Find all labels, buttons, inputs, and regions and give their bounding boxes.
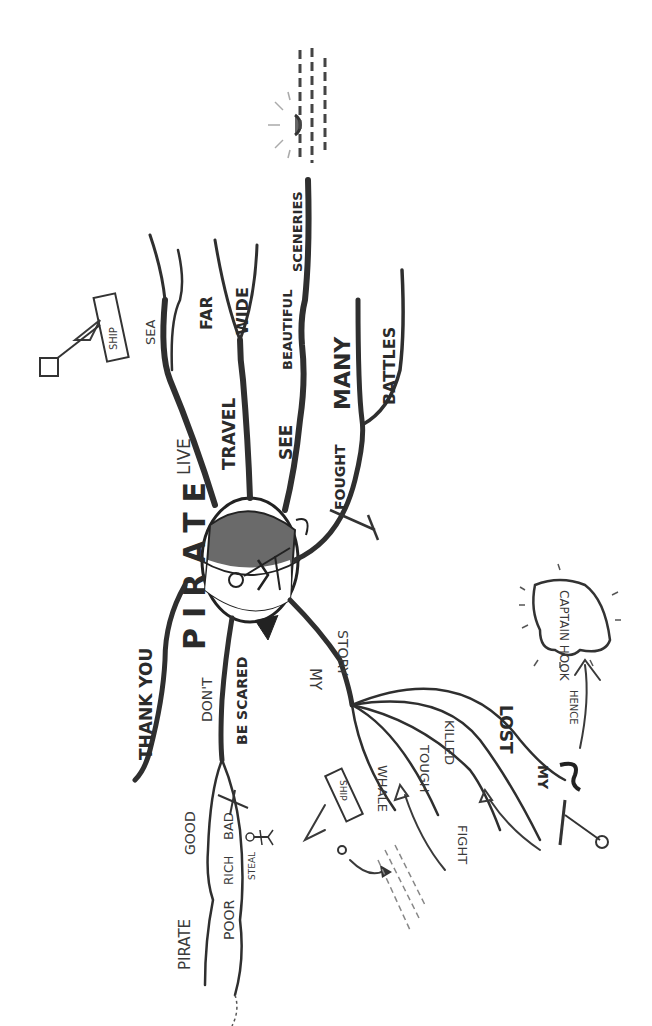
pirate-head-icon [200,498,308,640]
branch-label-see: SEE [276,425,296,460]
mind-map-canvas: PIRATE LIVE SEA SHIP TRAVEL FAR WIDE SEE… [0,0,652,1026]
leaf-label-wide: WIDE [233,287,252,335]
callout-label: CAPTAIN HOOK [557,590,571,682]
branch-label-thank-you: THANK YOU [136,648,156,760]
ship-icon: SHIP [305,769,425,930]
sunset-over-sea-icon [268,48,325,163]
captain-hook-callout: CAPTAIN HOOK [519,564,621,682]
center-label: PIRATE [177,472,212,650]
svg-text:SHIP: SHIP [108,327,119,350]
branch-dont-be-scared: DON'T BE SCARED GOOD PIRATE BAD RICH POO… [176,618,273,1026]
leaf-label-pirate: PIRATE [176,919,194,970]
leaf-label-good: GOOD [182,811,198,855]
hook-icon [560,764,608,848]
leaf-label-poor: POOR [221,900,237,940]
leaf-label-far: FAR [197,296,216,330]
branch-fought: FOUGHT MANY BATTLES [295,270,403,560]
leaf-label-many: MANY [330,336,355,410]
leaf-label-sceneries: SCENERIES [290,191,305,272]
leaf-label-my: MY [535,765,551,790]
hence-arrow: HENCE [568,660,600,748]
leaf-label-beautiful: BEAUTIFUL [280,290,295,370]
ship-icon: SHIP [40,293,129,376]
leaf-label-rich: RICH [222,856,236,885]
branch-travel: TRAVEL FAR WIDE [197,240,257,498]
svg-text:SHIP: SHIP [338,780,348,801]
branch-label-my: MY [306,668,324,691]
branch-see: SEE BEAUTIFUL SCENERIES [268,48,325,510]
branch-my-story: MY STORY WHALE TOUGH FIGHT KILLED LOST M… [290,564,621,930]
leaf-label-sea: SEA [143,320,158,345]
leaf-label-steal: STEAL [247,852,257,880]
branch-label-travel: TRAVEL [219,398,239,470]
leaf-label-whale: WHALE [375,765,390,812]
branch-live: LIVE SEA SHIP [40,235,215,505]
stick-figure-icon [246,830,273,845]
branch-label-be-scared: BE SCARED [234,657,250,745]
branch-label-dont: DON'T [199,677,215,722]
branch-label-live: LIVE [174,438,194,475]
hence-label: HENCE [568,690,579,725]
branch-label-fought: FOUGHT [332,444,348,510]
leaf-label-lost: LOST [496,705,516,754]
leaf-label-bad: BAD [221,812,236,840]
branch-label-story: STORY [335,630,351,676]
leaf-label-tough: TOUGH [417,744,432,793]
leaf-label-fight: FIGHT [455,825,470,864]
leaf-label-battles: BATTLES [380,327,399,405]
leaf-label-killed: KILLED [442,720,457,765]
